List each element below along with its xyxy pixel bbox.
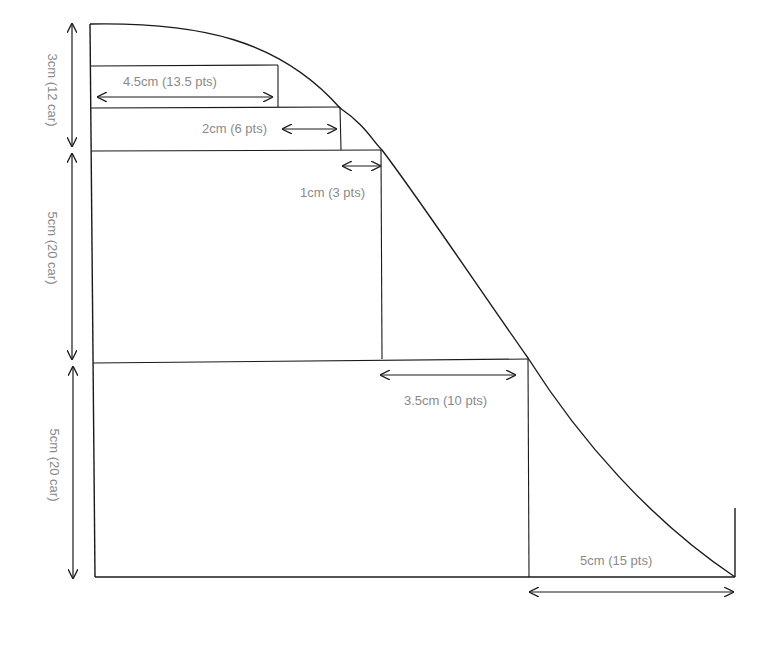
measurement-diagram: 3cm (12 car) 5cm (20 car) 5cm (20 car) 4… <box>0 0 778 651</box>
shape-outline <box>90 24 735 577</box>
curve <box>90 24 735 577</box>
label-vertical-5cm-lower: 5cm (20 car) <box>47 429 62 502</box>
label-2cm: 2cm (6 pts) <box>202 121 267 136</box>
label-4-5cm: 4.5cm (13.5 pts) <box>123 74 217 89</box>
label-vertical-5cm-upper: 5cm (20 car) <box>45 212 60 285</box>
label-3-5cm: 3.5cm (10 pts) <box>404 393 487 408</box>
label-1cm: 1cm (3 pts) <box>300 185 365 200</box>
dimension-arrows <box>72 24 733 592</box>
step-lines <box>91 65 529 577</box>
label-5cm-bottom: 5cm (15 pts) <box>580 553 652 568</box>
label-vertical-3cm: 3cm (12 car) <box>45 54 60 127</box>
